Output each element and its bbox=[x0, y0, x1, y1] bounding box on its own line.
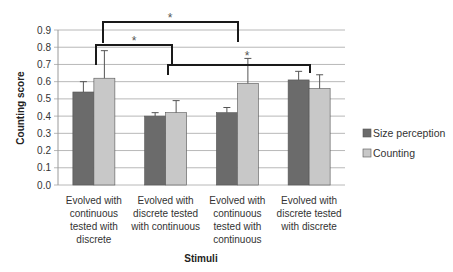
y-tick-label: 0.6 bbox=[37, 76, 51, 87]
x-category-label: Evolved with bbox=[209, 195, 265, 206]
x-category-label: with continuous bbox=[130, 221, 200, 232]
x-category-label: continuous bbox=[70, 208, 118, 219]
x-axis-category-labels: Evolved withcontinuoustested withdiscret… bbox=[66, 195, 342, 245]
x-category-label: Evolved with bbox=[66, 195, 122, 206]
x-category-label: tested with bbox=[70, 221, 118, 232]
y-tick-label: 0.9 bbox=[37, 25, 51, 36]
x-category-label: tested with bbox=[213, 221, 261, 232]
bar-size-perception bbox=[145, 116, 166, 185]
x-category-label: Evolved with bbox=[281, 195, 337, 206]
bar-chart: 0.00.10.20.30.40.50.60.70.80.9 *** Evolv… bbox=[0, 0, 453, 272]
y-tick-label: 0.7 bbox=[37, 59, 51, 70]
bar-counting bbox=[237, 83, 258, 185]
x-category-label: Evolved with bbox=[138, 195, 194, 206]
bar-size-perception bbox=[216, 113, 237, 185]
y-tick-label: 0.0 bbox=[37, 180, 51, 191]
legend-label: Counting bbox=[373, 147, 415, 159]
legend-label: Size perception bbox=[373, 127, 446, 139]
bar-size-perception bbox=[73, 92, 94, 185]
y-axis-ticks: 0.00.10.20.30.40.50.60.70.80.9 bbox=[37, 25, 51, 191]
x-axis-title: Stimuli bbox=[184, 253, 218, 264]
x-category-label: with discrete bbox=[280, 221, 337, 232]
y-tick-label: 0.2 bbox=[37, 145, 51, 156]
bar-counting bbox=[94, 78, 115, 185]
bar-size-perception bbox=[288, 80, 309, 185]
y-tick-label: 0.8 bbox=[37, 42, 51, 53]
bar-counting bbox=[166, 113, 187, 185]
x-category-label: discrete tested bbox=[277, 208, 342, 219]
y-tick-label: 0.4 bbox=[37, 111, 51, 122]
y-tick-label: 0.1 bbox=[37, 162, 51, 173]
legend: Size perceptionCounting bbox=[363, 127, 446, 159]
significance-star: * bbox=[132, 34, 137, 48]
x-category-label: continuous bbox=[213, 234, 261, 245]
significance-star: * bbox=[245, 49, 250, 63]
x-category-label: continuous bbox=[213, 208, 261, 219]
significance-star: * bbox=[168, 11, 173, 25]
y-tick-label: 0.5 bbox=[37, 93, 51, 104]
x-category-label: discrete bbox=[76, 234, 111, 245]
bar-counting bbox=[309, 89, 330, 185]
y-tick-label: 0.3 bbox=[37, 128, 51, 139]
y-axis-title: Counting score bbox=[15, 71, 26, 145]
x-category-label: discrete tested bbox=[133, 208, 198, 219]
legend-swatch-size-perception bbox=[363, 129, 371, 137]
legend-swatch-counting bbox=[363, 149, 371, 157]
